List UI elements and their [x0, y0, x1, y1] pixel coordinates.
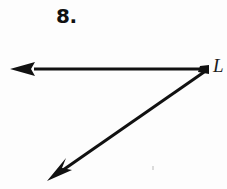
vertex-junction — [198, 65, 209, 74]
lower-left-arrowhead-icon — [47, 158, 72, 181]
angle-diagram — [0, 0, 227, 189]
left-arrowhead-icon — [10, 62, 35, 76]
geometry-figure: 8. L — [0, 0, 227, 189]
diagonal-ray-shaft — [63, 70, 207, 170]
scan-artifact-speck — [152, 166, 154, 170]
vertex-label-L: L — [213, 56, 224, 76]
